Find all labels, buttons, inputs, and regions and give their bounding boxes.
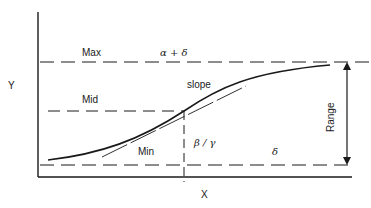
mid-label: Mid: [82, 94, 98, 105]
max-label: Max: [82, 47, 101, 58]
y-axis-label: Y: [8, 80, 15, 91]
range-label: Range: [325, 102, 336, 132]
min-expression-label: δ: [272, 146, 278, 157]
max-expression-label: α + δ: [160, 47, 188, 58]
inflection-expression-label: β / γ: [193, 137, 216, 148]
x-axis-label: X: [201, 189, 208, 200]
sigmoid-diagram: Y X Max α + δ Mid Min δ slope β / γ Rang…: [0, 0, 371, 208]
min-label: Min: [138, 146, 154, 157]
slope-label: slope: [187, 79, 211, 90]
slope-tangent-line: [102, 86, 246, 157]
